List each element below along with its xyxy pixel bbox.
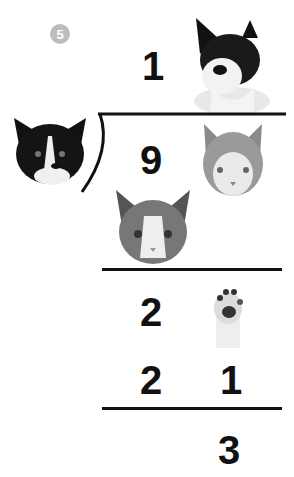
subtraction-line-2 (102, 407, 282, 410)
paw-image (212, 278, 248, 348)
quotient-digit: 1 (142, 46, 164, 86)
problem-number-badge: 5 (50, 24, 70, 44)
row4-digit-b: 1 (220, 360, 242, 400)
remainder-digit: 2 (140, 292, 162, 332)
subtrahend-cat-image (114, 188, 192, 268)
subtraction-line-1 (102, 268, 282, 271)
dividend-cat-image (200, 122, 266, 200)
result-digit: 3 (218, 430, 240, 470)
dividend-digit: 9 (140, 140, 162, 180)
divisor-cat-image (12, 114, 88, 186)
quotient-cat-image (192, 16, 270, 116)
row4-digit-a: 2 (140, 360, 162, 400)
